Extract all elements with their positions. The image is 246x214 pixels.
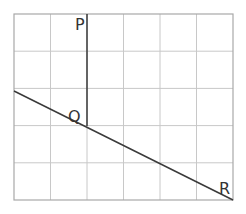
point-label-r: R xyxy=(219,179,230,198)
point-label-q: Q xyxy=(68,107,81,126)
point-label-p: P xyxy=(75,15,85,34)
grid-diagram: P Q R xyxy=(0,0,246,214)
